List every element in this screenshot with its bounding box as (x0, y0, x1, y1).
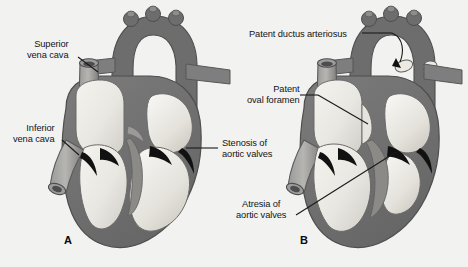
arch-branch-lumen-3-b (410, 10, 418, 16)
label-patent-oval-foramen-line2: oval foramen (247, 95, 300, 106)
arch-branch-lumen-2-b (387, 6, 395, 12)
heart-defects-figure (0, 0, 468, 267)
label-stenosis-line2: aortic valves (222, 149, 272, 160)
arch-branch-lumen-1-a (127, 11, 135, 17)
label-superior-vena-cava: Superior vena cava (27, 39, 68, 61)
label-patent-oval-foramen: Patent oval foramen (247, 84, 300, 106)
svc-lumen-b (321, 62, 333, 67)
label-atresia-line1: Atresia of (236, 199, 286, 210)
label-inferior-vena-cava-line2: vena cava (13, 134, 54, 145)
label-stenosis-of-aortic-valves: Stenosis of aortic valves (222, 138, 272, 160)
arch-branch-lumen-1-b (365, 11, 373, 17)
panel-letter-b: B (300, 234, 308, 246)
label-stenosis-line1: Stenosis of (222, 138, 272, 149)
label-atresia-line2: aortic valves (236, 210, 286, 221)
label-patent-oval-foramen-line1: Patent (247, 84, 300, 95)
label-inferior-vena-cava-line1: Inferior (13, 123, 54, 134)
panel-letter-a: A (64, 234, 72, 246)
label-patent-ductus-arteriosus: Patent ductus arteriosus (249, 29, 347, 40)
label-superior-vena-cava-line2: vena cava (27, 50, 68, 61)
label-superior-vena-cava-line1: Superior (27, 39, 68, 50)
label-atresia-of-aortic-valves: Atresia of aortic valves (236, 199, 286, 221)
arch-branch-lumen-3-a (172, 10, 180, 16)
label-inferior-vena-cava: Inferior vena cava (13, 123, 54, 145)
arch-branch-lumen-2-a (149, 6, 157, 12)
